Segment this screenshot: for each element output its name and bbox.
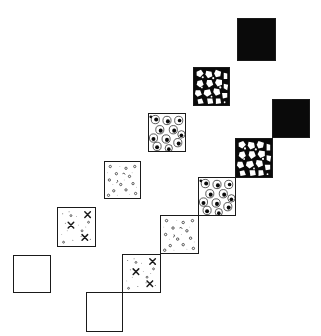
left-square-stars xyxy=(57,207,96,247)
right-square-stars xyxy=(122,254,161,293)
star-texture-icon xyxy=(123,255,160,292)
leopard-texture-icon xyxy=(236,139,272,177)
star-texture-icon xyxy=(58,208,95,246)
circle-dot-texture-icon xyxy=(199,178,235,215)
leopard-texture-icon xyxy=(194,68,229,105)
right-square-empty xyxy=(86,292,123,332)
left-square-circles xyxy=(148,113,186,152)
right-square-black xyxy=(272,99,310,138)
left-square-rings xyxy=(104,161,141,199)
circle-dot-texture-icon xyxy=(149,114,185,151)
right-square-leopard xyxy=(235,138,273,178)
right-square-rings xyxy=(160,215,199,254)
right-square-circles xyxy=(198,177,236,216)
ring-texture-icon xyxy=(161,216,198,253)
left-square-empty xyxy=(13,255,51,293)
left-square-leopard xyxy=(193,67,230,106)
left-square-black xyxy=(237,18,276,61)
ring-texture-icon xyxy=(105,162,140,198)
